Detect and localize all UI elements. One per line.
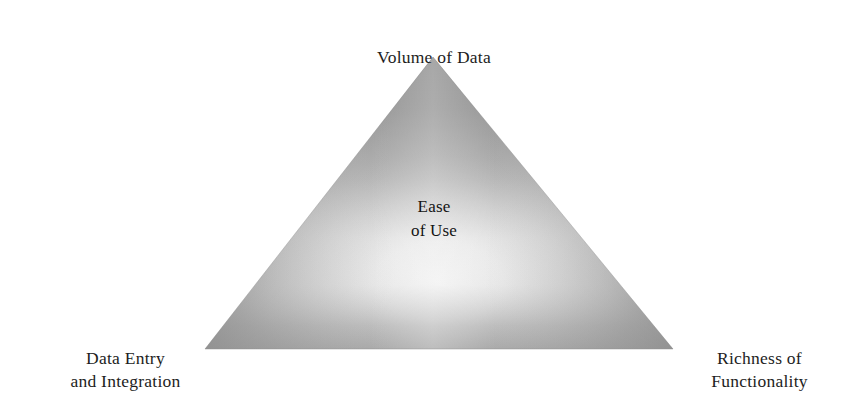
vertex-label-bottom-left-line2: and Integration xyxy=(38,370,213,392)
triangle-diagram-figure: Ease of Use Volume of Data Data Entry an… xyxy=(0,0,844,395)
vertex-label-bottom-right-line1: Richness of xyxy=(717,348,802,368)
vertex-label-bottom-right: Richness of Functionality xyxy=(672,325,844,395)
vertex-label-bottom-right-line2: Functionality xyxy=(672,370,844,392)
vertex-label-top: Volume of Data xyxy=(314,24,554,69)
vertex-label-top-line1: Volume of Data xyxy=(377,47,491,67)
center-label-line2: of Use xyxy=(344,219,524,242)
vertex-label-bottom-left: Data Entry and Integration xyxy=(38,325,213,395)
center-label-line1: Ease xyxy=(418,197,451,216)
vertex-label-bottom-left-line1: Data Entry xyxy=(86,348,165,368)
center-label: Ease of Use xyxy=(344,172,524,266)
